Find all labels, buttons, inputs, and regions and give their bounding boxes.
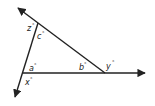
- svg-text:°: °: [32, 22, 35, 28]
- svg-text:°: °: [84, 61, 87, 67]
- angle-label-z: z °: [26, 22, 35, 33]
- angle-label-x: x °: [24, 76, 33, 87]
- svg-text:°: °: [112, 59, 115, 65]
- svg-text:°: °: [42, 30, 45, 36]
- angle-label-b: b °: [79, 61, 87, 72]
- svg-text:°: °: [30, 76, 33, 82]
- angle-label-a: a °: [29, 62, 37, 73]
- triangle-angle-diagram: z ° c ° a ° x ° b ° y °: [0, 0, 155, 106]
- svg-text:y: y: [105, 62, 111, 71]
- angle-label-y: y °: [105, 59, 115, 71]
- angle-label-c: c °: [37, 30, 45, 41]
- svg-text:°: °: [34, 62, 37, 68]
